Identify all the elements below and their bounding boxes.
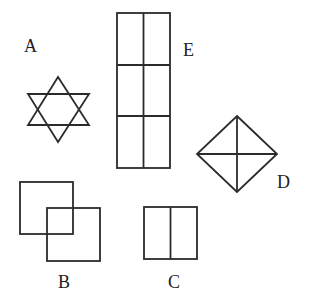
figure-d-diamond <box>197 116 277 192</box>
figure-c-split-square <box>144 207 197 259</box>
label-b: B <box>58 272 70 292</box>
figure-e-grid <box>117 13 170 168</box>
label-a: A <box>24 36 37 56</box>
figure-b-squares <box>20 182 100 261</box>
label-c: C <box>168 272 180 292</box>
star-upward-triangle <box>28 77 89 125</box>
star-downward-triangle <box>28 94 89 142</box>
figure-a-star <box>28 77 89 142</box>
label-d: D <box>277 172 290 192</box>
diagram-canvas: A E D B C <box>0 0 310 299</box>
label-e: E <box>183 40 194 60</box>
